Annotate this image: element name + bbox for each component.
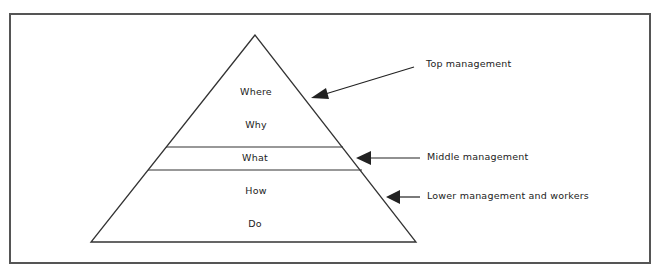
- pyramid-diagram: [0, 0, 659, 269]
- tier-label-how: How: [245, 185, 266, 196]
- tier-label-why: Why: [245, 119, 267, 130]
- arrow-top-management: [311, 67, 414, 99]
- arrow-lower-management: [386, 190, 420, 204]
- arrow-middle-management: [356, 151, 420, 165]
- tier-label-where: Where: [240, 86, 272, 97]
- pyramid-outline: [91, 35, 416, 242]
- tier-label-do: Do: [248, 218, 262, 229]
- annotation-top-management: Top management: [426, 58, 512, 69]
- annotation-middle-management: Middle management: [427, 151, 528, 162]
- tier-label-what: What: [242, 152, 268, 163]
- annotation-lower-management: Lower management and workers: [427, 190, 589, 201]
